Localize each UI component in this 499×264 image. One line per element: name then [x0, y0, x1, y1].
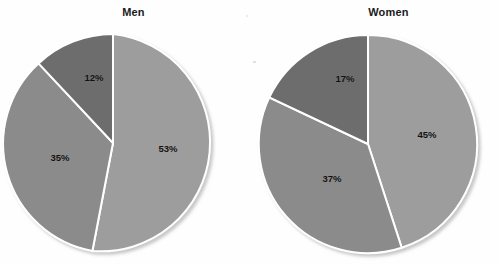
pie-label-men-12: 12% [84, 72, 103, 83]
chart-women: Women 45% 37% 17% [250, 0, 499, 264]
pie-chart-figure: Men 53% 35% 12% Women [0, 0, 499, 264]
scan-speck [253, 61, 256, 63]
pie-men-svg [0, 0, 249, 264]
pie-label-women-45: 45% [417, 129, 436, 140]
pie-women-slices [259, 35, 477, 253]
scan-speck [246, 15, 248, 17]
chart-men: Men 53% 35% 12% [0, 0, 249, 264]
pie-label-women-37: 37% [322, 173, 341, 184]
pie-women-svg [250, 0, 499, 264]
pie-label-women-17: 17% [335, 73, 354, 84]
pie-label-men-53: 53% [158, 143, 177, 154]
pie-label-men-35: 35% [50, 152, 69, 163]
pie-men-slices [3, 34, 210, 251]
